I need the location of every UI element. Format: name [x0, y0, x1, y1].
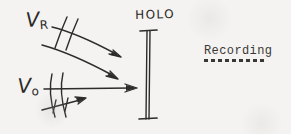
- hologram-plate-group: [139, 30, 157, 119]
- recording-caption: Recording: [204, 45, 272, 57]
- object-beam-symbol: V: [17, 73, 32, 98]
- object-beam-subscript: o: [31, 84, 39, 98]
- hologram-recording-figure: VR Vo HOLO Recording: [0, 0, 291, 134]
- object-beam-label: Vo: [17, 75, 39, 98]
- hologram-plate-bottom-cap: [139, 118, 157, 119]
- object-beam-group: [42, 73, 137, 117]
- hologram-plate-left-edge: [146, 31, 147, 119]
- reference-beam-group: [42, 17, 121, 79]
- reference-beam-symbol: V: [25, 7, 40, 32]
- object-beam-ray: [44, 88, 131, 89]
- recording-caption-underline: [204, 59, 266, 62]
- object-wavefront-curve-1: [50, 74, 55, 117]
- reference-beam-ray-lower: [42, 45, 112, 75]
- reference-beam-label: VR: [25, 8, 49, 32]
- object-beam-tilt-arrow-shaft: [42, 100, 80, 110]
- reference-beam-subscript: R: [39, 18, 48, 33]
- hologram-plate-right-edge: [149, 31, 150, 119]
- hologram-plate-top-cap: [140, 30, 157, 31]
- reference-wavefront-tick-1: [55, 17, 67, 48]
- hologram-plate-label: HOLO: [135, 8, 175, 21]
